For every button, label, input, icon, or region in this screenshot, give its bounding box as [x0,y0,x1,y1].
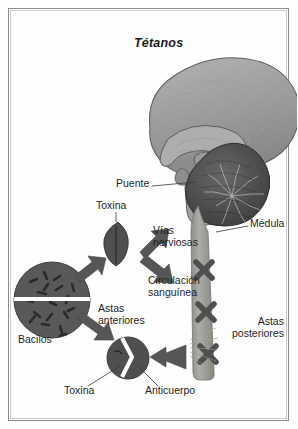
leader-toxina-bottom [88,366,120,386]
label-circulacion-sanguinea: Circulación sanguínea [148,275,200,298]
diagram-artwork [0,0,297,429]
bacilos-white-band [12,297,92,301]
label-medula: Médula [250,218,284,230]
leader-medula [216,226,248,232]
label-toxina-top: Toxina [96,200,126,212]
label-toxina-bottom: Toxina [64,385,94,397]
label-anticuerpo: Anticuerpo [145,385,195,397]
label-astas-anteriores: Astas anteriores [98,303,145,326]
label-bacilos: Bacilos [18,334,52,346]
brain-illustration [150,58,298,226]
label-vias-nerviosas: Vías nerviosas [153,225,198,248]
diagram-page: Tétanos [0,0,297,429]
leader-anticuerpo [138,366,158,386]
anticuerpo-circle [107,337,149,379]
arrow-to-astas-anteriores [150,345,186,369]
anticuerpo-toxina-union [107,337,149,379]
label-astas-posteriores: Astas posteriores [232,316,284,339]
label-puente: Puente [116,178,149,190]
